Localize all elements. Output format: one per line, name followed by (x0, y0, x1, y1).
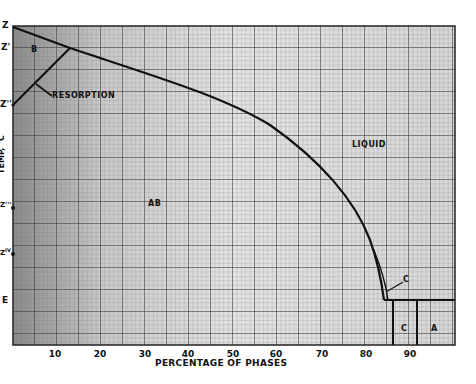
y-label-e: E (2, 295, 8, 305)
x-tick-80: 80 (360, 349, 373, 359)
y-label-z-double-prime: Z'' (0, 99, 12, 109)
y-label-z-triple-prime: Z''' (0, 201, 12, 209)
x-tick-70: 70 (316, 349, 329, 359)
x-tick-20: 20 (94, 349, 107, 359)
region-label-resorption: RESORPTION (52, 91, 115, 100)
y-label-z-prime: Z' (1, 42, 10, 52)
region-label-b: B (31, 45, 38, 54)
region-label-c: C (401, 324, 407, 333)
x-axis-title: PERCENTAGE OF PHASES (155, 358, 287, 368)
region-label-ab: AB (148, 199, 161, 208)
y-label-z-iv: ZIV (0, 247, 11, 257)
plot-area (13, 26, 455, 345)
x-tick-90: 90 (404, 349, 417, 359)
y-axis-title: TEMP, °C (0, 135, 6, 174)
region-label-c-pointer: C (403, 275, 409, 284)
region-label-liquid: LIQUID (352, 140, 386, 149)
region-label-a: A (431, 324, 438, 333)
x-tick-10: 10 (49, 349, 62, 359)
x-tick-30: 30 (139, 349, 152, 359)
y-label-z: Z (2, 20, 9, 30)
